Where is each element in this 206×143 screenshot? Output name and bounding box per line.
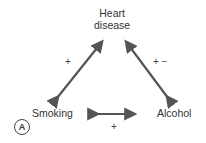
panel-label-badge: A (14, 119, 30, 135)
alcohol-heart-arrow (127, 43, 168, 98)
edge-label-smoking-alcohol: + (111, 122, 117, 132)
node-alcohol: Alcohol (157, 107, 191, 119)
node-heart-disease: Heart disease (94, 7, 130, 31)
disease-label: disease (94, 19, 130, 31)
edge-label-alcohol-heart: + − (153, 57, 167, 67)
heart-label: Heart (94, 7, 130, 19)
node-smoking: Smoking (32, 107, 73, 119)
smoking-heart-arrow (57, 43, 101, 98)
edge-label-smoking-heart: + (65, 57, 71, 67)
